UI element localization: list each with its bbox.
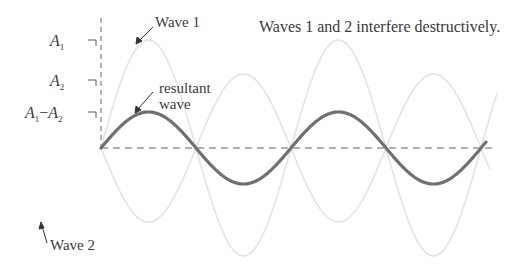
- resultant-label-line2: wave: [159, 96, 191, 112]
- annotation-arrows: [39, 27, 153, 243]
- a2-axis-label: A2: [50, 73, 64, 95]
- interference-diagram: [0, 0, 522, 272]
- resultant-label-line1: resultant: [159, 80, 211, 96]
- a1-axis-label: A1: [50, 33, 64, 55]
- wave-2-label: Wave 2: [50, 237, 95, 253]
- amplitude-ticks: [88, 40, 96, 118]
- a1-minus-a2-axis-label: A1−A2: [25, 105, 63, 127]
- title-text: Waves 1 and 2 interfere destructively.: [259, 19, 500, 35]
- wave-1-label: Wave 1: [155, 14, 200, 30]
